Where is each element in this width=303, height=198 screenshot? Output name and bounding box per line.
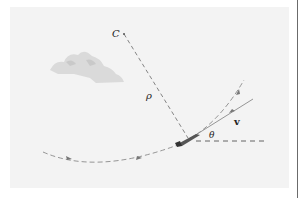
flight-path <box>43 80 244 162</box>
radius-label: ρ <box>145 90 152 101</box>
center-label: C <box>112 28 120 39</box>
cloud-icon <box>50 52 124 83</box>
angle-label: θ <box>209 130 215 140</box>
airplane-icon <box>175 134 200 147</box>
velocity-label: v <box>233 116 241 127</box>
center-point <box>123 33 125 35</box>
radius-line <box>124 34 188 138</box>
diagram-canvas: C ρ θ v <box>0 0 303 198</box>
path-arrow-left <box>66 156 72 160</box>
